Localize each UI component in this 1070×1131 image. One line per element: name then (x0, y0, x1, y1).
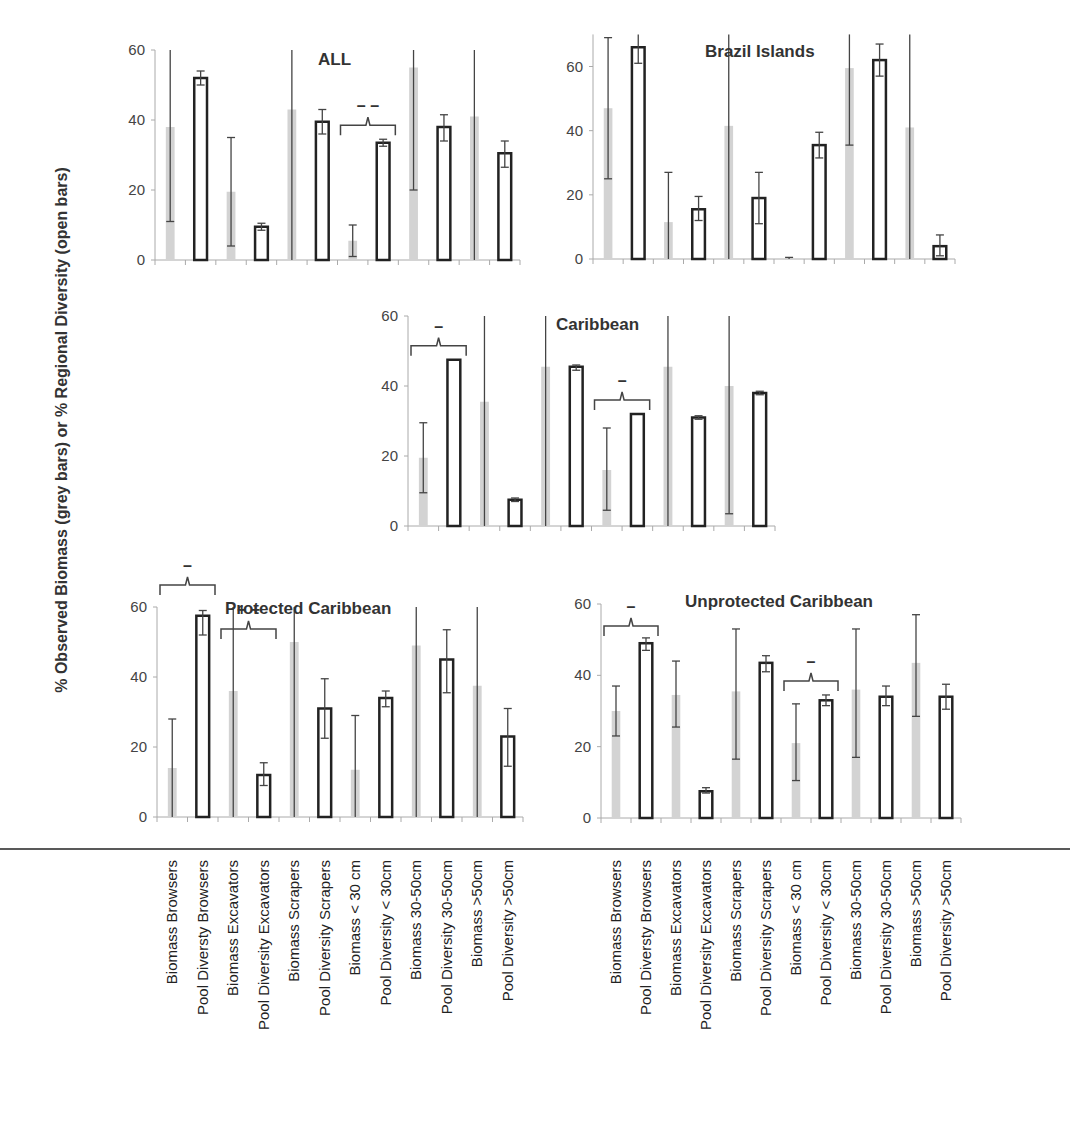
panel-all: 0204060– –ALL (128, 41, 520, 268)
significance-bracket (604, 618, 658, 636)
diversity-bar (813, 145, 826, 259)
category-label: Pool Diversity Excavators (697, 860, 714, 1030)
category-label: Pool Diversity >50cm (499, 860, 516, 1001)
y-tick-label: 20 (381, 447, 398, 464)
diversity-bar (640, 643, 653, 818)
diversity-bar (940, 697, 953, 818)
category-label: Pool Diversity < 30cm (377, 860, 394, 1005)
diversity-bar (632, 47, 645, 259)
category-label: Biomass < 30 cm (787, 860, 804, 975)
y-tick-label: 0 (137, 251, 145, 268)
panel-unprotected-caribbean: 0204060––Unprotected Caribbean (574, 592, 961, 826)
diversity-bar (700, 791, 713, 818)
significance-bracket (411, 338, 466, 356)
diversity-bar (570, 367, 583, 526)
diversity-bar (379, 698, 392, 817)
category-label: Biomass Scrapers (727, 860, 744, 982)
diversity-bar (438, 127, 451, 260)
y-tick-label: 40 (566, 122, 583, 139)
panel-brazil-islands: 0204060Brazil Islands (566, 34, 955, 267)
significance-bracket (160, 577, 215, 595)
category-label: Biomass Excavators (667, 860, 684, 996)
diversity-bar (873, 60, 886, 259)
y-tick-label: 60 (128, 41, 145, 58)
panel-title: Caribbean (556, 315, 639, 334)
category-label: Pool Diversity < 30cm (817, 860, 834, 1005)
diversity-bar (194, 78, 207, 260)
significance-marker: – (183, 557, 192, 574)
y-tick-label: 20 (566, 186, 583, 203)
y-tick-label: 0 (583, 809, 591, 826)
panel-title: Protected Caribbean (225, 599, 391, 618)
y-tick-label: 60 (574, 595, 591, 612)
category-label: Pool Diversty Browsers (637, 860, 654, 1015)
significance-bracket (595, 392, 650, 410)
significance-marker: – (807, 653, 816, 670)
significance-bracket (784, 673, 838, 691)
y-tick-label: 0 (139, 808, 147, 825)
diversity-bar (316, 122, 329, 260)
y-tick-label: 60 (381, 307, 398, 324)
category-label: Biomass Browsers (607, 860, 624, 984)
diversity-bar (692, 418, 705, 527)
panel-caribbean: 0204060––Caribbean (381, 307, 775, 534)
diversity-bar (820, 700, 833, 818)
diversity-bar (880, 697, 893, 818)
category-label: Biomass 30-50cm (847, 860, 864, 980)
category-label: Pool Diversity >50cm (937, 860, 954, 1001)
diversity-bar (760, 663, 773, 818)
category-label: Pool Diversty Browsers (194, 860, 211, 1015)
category-label: Pool Diversity Scrapers (757, 860, 774, 1016)
y-tick-label: 20 (574, 738, 591, 755)
category-label: Pool Diversity Scrapers (316, 860, 333, 1016)
significance-marker: – (627, 598, 636, 615)
significance-marker: – – (357, 97, 379, 114)
y-tick-label: 20 (128, 181, 145, 198)
significance-bracket (221, 621, 276, 639)
significance-marker: – (434, 318, 443, 335)
y-tick-label: 40 (574, 666, 591, 683)
y-tick-label: 0 (575, 250, 583, 267)
diversity-bar (753, 393, 766, 526)
category-label: Biomass Browsers (163, 860, 180, 984)
category-label: Biomass Scrapers (285, 860, 302, 982)
panel-title: Brazil Islands (705, 42, 815, 61)
figure-canvas: 0204060– –ALL 0204060Brazil Islands 0204… (0, 0, 1070, 1131)
category-label: Biomass >50cm (907, 860, 924, 967)
category-label: Biomass 30-50cm (407, 860, 424, 980)
category-labels-left: Biomass BrowsersPool Diversty BrowsersBi… (163, 860, 516, 1030)
y-tick-label: 40 (128, 111, 145, 128)
category-label: Biomass < 30 cm (346, 860, 363, 975)
diversity-bar (631, 414, 644, 526)
diversity-bar (447, 360, 460, 526)
diversity-bar (509, 500, 522, 526)
category-label: Biomass Excavators (224, 860, 241, 996)
y-tick-label: 0 (390, 517, 398, 534)
diversity-bar (377, 143, 390, 260)
diversity-bar (255, 227, 268, 260)
y-tick-label: 40 (130, 668, 147, 685)
y-tick-label: 60 (566, 58, 583, 75)
category-labels-right: Biomass BrowsersPool Diversty BrowsersBi… (607, 860, 954, 1030)
category-label: Pool Diversity Excavators (255, 860, 272, 1030)
panel-title: ALL (318, 50, 351, 69)
y-tick-label: 60 (130, 598, 147, 615)
category-label: Pool Diversity 30-50cm (438, 860, 455, 1014)
category-label: Biomass >50cm (468, 860, 485, 967)
y-tick-label: 20 (130, 738, 147, 755)
significance-marker: – (618, 372, 627, 389)
panel-protected-caribbean: 0204060–+ +Protected Caribbean (130, 557, 523, 825)
significance-bracket (341, 117, 396, 135)
panel-title: Unprotected Caribbean (685, 592, 873, 611)
diversity-bar (196, 616, 209, 817)
y-tick-label: 40 (381, 377, 398, 394)
category-label: Pool Diversity 30-50cm (877, 860, 894, 1014)
diversity-bar (498, 153, 511, 260)
